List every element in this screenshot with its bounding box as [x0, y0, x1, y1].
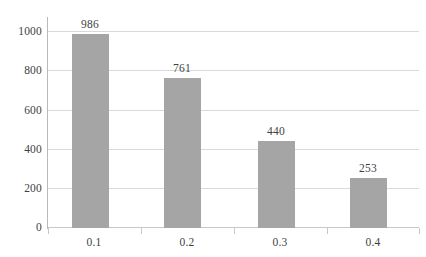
x-tick-end — [419, 228, 420, 234]
bar-0.3[interactable] — [258, 141, 295, 228]
y-tick-label-600: 600 — [2, 105, 42, 116]
bar-0.1[interactable] — [72, 34, 109, 228]
bar-value-label-0.4: 253 — [338, 163, 398, 174]
plot-area — [48, 31, 419, 228]
bar-chart: 1000 800 600 400 200 0 986 761 440 253 0… — [0, 0, 426, 257]
x-axis-label-0.1: 0.1 — [64, 236, 124, 248]
bar-0.2[interactable] — [164, 78, 201, 228]
x-tick-3 — [327, 228, 328, 234]
y-tick-label-0: 0 — [2, 222, 42, 233]
bar-value-label-0.1: 986 — [60, 19, 120, 30]
x-tick-2 — [234, 228, 235, 234]
y-axis-labels: 1000 800 600 400 200 0 — [0, 0, 42, 257]
bar-value-label-0.2: 761 — [152, 63, 212, 74]
x-tick-start — [48, 228, 49, 234]
x-axis-label-0.4: 0.4 — [343, 236, 403, 248]
gridline-1000 — [48, 31, 419, 32]
bar-0.4[interactable] — [350, 178, 387, 228]
y-tick-label-800: 800 — [2, 65, 42, 76]
y-tick-label-400: 400 — [2, 144, 42, 155]
x-axis-label-0.2: 0.2 — [157, 236, 217, 248]
y-tick-label-200: 200 — [2, 183, 42, 194]
bar-value-label-0.3: 440 — [246, 126, 306, 137]
x-tick-1 — [141, 228, 142, 234]
x-axis-label-0.3: 0.3 — [250, 236, 310, 248]
y-tick-label-1000: 1000 — [2, 26, 42, 37]
